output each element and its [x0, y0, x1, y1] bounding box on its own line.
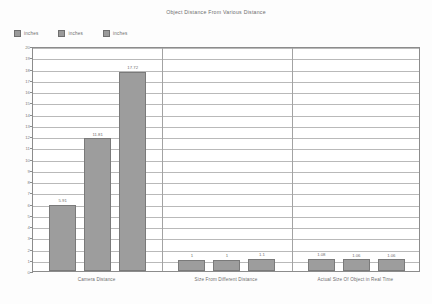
chart-page: Object Distance From Various Distance in…	[0, 0, 432, 304]
x-category-label: Camera Distance	[78, 277, 116, 282]
y-axis: 20191817161514131211109876543210	[0, 47, 30, 272]
y-tick-label: 10	[4, 157, 30, 162]
bar-value-label: 1	[172, 253, 212, 258]
bar-item[interactable]: 1.06	[343, 48, 370, 271]
bar-value-label: 1.08	[301, 252, 341, 257]
legend-swatch-icon	[103, 30, 110, 37]
bar-rect[interactable]	[119, 72, 146, 271]
x-category-label: Size From Different Distance	[195, 277, 258, 282]
y-tick-label: 15	[4, 101, 30, 106]
y-tick-label: 9	[4, 168, 30, 173]
y-tick-label: 16	[4, 90, 30, 95]
y-tick-label: 19	[4, 56, 30, 61]
legend-label: inches	[113, 31, 127, 36]
bar-value-label: 5.91	[43, 198, 83, 203]
bar-value-label: 1.1	[242, 252, 282, 257]
legend-item[interactable]: inches	[14, 30, 38, 37]
y-tick-label: 1	[4, 258, 30, 263]
legend-swatch-icon	[14, 30, 21, 37]
y-tick-label: 4	[4, 225, 30, 230]
y-tick-label: 8	[4, 180, 30, 185]
bar-group: 5.9111.8117.72	[33, 48, 162, 271]
bar-rect[interactable]	[308, 259, 335, 271]
bar-item[interactable]: 1	[178, 48, 205, 271]
y-tick-label: 11	[4, 146, 30, 151]
y-tick-label: 20	[4, 45, 30, 50]
bar-value-label: 1.06	[336, 253, 376, 258]
bar-item[interactable]: 1.06	[378, 48, 405, 271]
bar-item[interactable]: 1.08	[308, 48, 335, 271]
legend-item[interactable]: inches	[103, 30, 127, 37]
bar-value-label: 1	[207, 253, 247, 258]
bar-rect[interactable]	[248, 259, 275, 271]
x-category-label: Actual Size Of Object in Real Time	[318, 277, 394, 282]
y-tick-label: 13	[4, 123, 30, 128]
bar-group: 111.1	[162, 48, 291, 271]
y-tick-label: 6	[4, 202, 30, 207]
bar-item[interactable]: 1.1	[248, 48, 275, 271]
bar-rect[interactable]	[84, 138, 111, 271]
bar-rect[interactable]	[49, 205, 76, 271]
legend-item[interactable]: inches	[58, 30, 82, 37]
chart-legend: inches inches inches	[14, 30, 127, 37]
bar-item[interactable]: 1	[213, 48, 240, 271]
bar-value-label: 1.06	[371, 253, 411, 258]
plot-area: 5.9111.8117.72111.11.081.061.06	[32, 47, 420, 272]
bar-rect[interactable]	[213, 260, 240, 271]
y-tick-mark	[30, 272, 33, 273]
y-tick-label: 2	[4, 247, 30, 252]
bar-rect[interactable]	[343, 259, 370, 271]
legend-label: inches	[68, 31, 82, 36]
y-tick-label: 18	[4, 67, 30, 72]
y-tick-label: 7	[4, 191, 30, 196]
x-axis: Camera DistanceSize From Different Dista…	[32, 274, 420, 290]
bar-rect[interactable]	[378, 259, 405, 271]
legend-swatch-icon	[58, 30, 65, 37]
bar-item[interactable]: 11.81	[84, 48, 111, 271]
y-tick-label: 5	[4, 213, 30, 218]
y-tick-label: 0	[4, 270, 30, 275]
chart-title: Object Distance From Various Distance	[0, 9, 432, 15]
plot-inner: 5.9111.8117.72111.11.081.061.06	[33, 48, 419, 271]
bar-group: 1.081.061.06	[292, 48, 419, 271]
bar-item[interactable]: 17.72	[119, 48, 146, 271]
bar-value-label: 17.72	[113, 65, 153, 70]
legend-label: inches	[24, 31, 38, 36]
y-tick-label: 3	[4, 236, 30, 241]
y-tick-label: 12	[4, 135, 30, 140]
bar-rect[interactable]	[178, 260, 205, 271]
y-tick-label: 14	[4, 112, 30, 117]
bar-value-label: 11.81	[78, 132, 118, 137]
bar-item[interactable]: 5.91	[49, 48, 76, 271]
y-tick-label: 17	[4, 78, 30, 83]
